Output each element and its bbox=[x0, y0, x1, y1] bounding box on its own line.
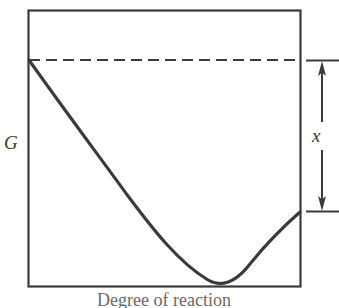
free-energy-figure: G x Degree of reaction bbox=[0, 0, 339, 308]
y-axis-label: G bbox=[4, 133, 18, 152]
free-energy-curve bbox=[29, 60, 300, 283]
measure-label-x: x bbox=[312, 126, 320, 145]
plot-frame bbox=[29, 11, 301, 287]
figure-canvas bbox=[0, 0, 339, 308]
x-axis-caption: Degree of reaction bbox=[28, 291, 300, 308]
